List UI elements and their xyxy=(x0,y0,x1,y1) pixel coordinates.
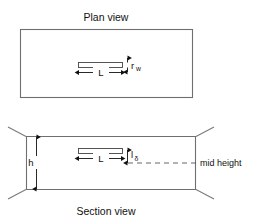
section-view-length-label: L xyxy=(98,153,103,164)
crack-geometry-figure: Plan view L r w xyxy=(0,0,262,224)
break-line-top-right xyxy=(196,127,214,137)
section-view-offset-label-subscript: δ xyxy=(135,155,139,162)
section-view-offset-label: l xyxy=(131,149,133,160)
plan-view-width-label: r xyxy=(131,60,134,71)
section-view-height-label: h xyxy=(28,157,33,168)
plan-view-width-dimension-gap xyxy=(124,63,131,68)
section-view-group: h L l δ mid height Section view xyxy=(8,127,242,217)
plan-view-group: Plan view L r w xyxy=(21,11,193,98)
break-line-bottom-right xyxy=(196,190,214,200)
diagram-canvas: Plan view L r w xyxy=(0,0,262,224)
plan-view-width-label-subscript: w xyxy=(135,65,141,72)
plan-view-length-label: L xyxy=(98,67,103,78)
section-view-title: Section view xyxy=(77,205,136,217)
plan-view-title: Plan view xyxy=(84,11,129,23)
mid-height-label: mid height xyxy=(200,158,242,168)
break-line-bottom-left xyxy=(8,190,26,200)
break-line-top-left xyxy=(8,127,26,137)
